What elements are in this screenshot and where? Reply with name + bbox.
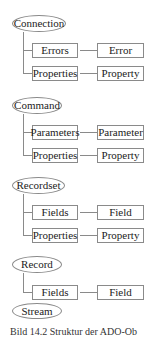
property-object-node: Property [97, 228, 144, 243]
connection-node: Connection [12, 15, 66, 32]
connector-line [23, 155, 32, 156]
errors-collection-node: Errors [32, 43, 78, 58]
property-object-node: Property [97, 66, 144, 81]
connector-line [80, 292, 97, 293]
properties-collection-node: Properties [32, 148, 78, 163]
field-object-node: Field [97, 205, 144, 220]
parameter-object-node: Parameter [97, 125, 144, 140]
field-object-node: Field [97, 285, 144, 300]
record-node: Record [12, 256, 62, 273]
connector-line [80, 132, 97, 133]
connector-line [23, 292, 32, 293]
recordset-node: Recordset [12, 177, 65, 194]
connector-line [80, 235, 97, 236]
connector-line [23, 50, 32, 51]
connector-line [80, 212, 97, 213]
connector-line [23, 235, 32, 236]
connector-line [23, 194, 24, 236]
connector-line [23, 73, 32, 74]
connector-line [23, 114, 24, 155]
connector-line [23, 212, 32, 213]
property-object-node: Property [97, 148, 144, 163]
properties-collection-node: Properties [32, 66, 78, 81]
connector-line [80, 155, 97, 156]
connector-line [23, 32, 24, 74]
stream-node: Stream [12, 303, 62, 319]
figure-caption: Bild 14.2 Struktur der ADO-Ob [10, 326, 137, 337]
properties-collection-node: Properties [32, 228, 78, 243]
parameters-collection-node: Parameters [32, 125, 78, 140]
fields-collection-node: Fields [32, 285, 78, 300]
command-node: Command [12, 97, 62, 114]
error-object-node: Error [97, 43, 144, 58]
connector-line [80, 50, 97, 51]
fields-collection-node: Fields [32, 205, 78, 220]
connector-line [80, 73, 97, 74]
connector-line [23, 273, 24, 292]
